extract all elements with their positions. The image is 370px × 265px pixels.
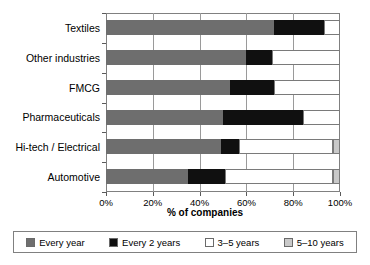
bar-segment-every-2-years (230, 80, 274, 95)
legend-label: Every year (39, 237, 84, 248)
legend-item[interactable]: 3–5 years (205, 237, 260, 248)
x-axis-tick (340, 192, 341, 196)
bar-segment-every-year (106, 20, 274, 35)
bar-segment-every-2-years (221, 139, 240, 154)
y-axis-label: Hi-tech / Electrical (0, 141, 100, 153)
legend-swatch-icon (109, 238, 118, 247)
x-axis-title: % of companies (0, 207, 370, 218)
bar-segment-every-2-years (246, 50, 272, 65)
legend-label: 3–5 years (218, 237, 260, 248)
y-axis-label: FMCG (0, 82, 100, 94)
bar-segment-5-10-years (333, 139, 340, 154)
bar-segment-3-5-years (272, 50, 340, 65)
bar-segment-every-2-years (188, 169, 225, 184)
y-axis-label: Automotive (0, 171, 100, 183)
legend-swatch-icon (26, 238, 35, 247)
bar-segment-every-year (106, 110, 223, 125)
legend-label: Every 2 years (122, 237, 180, 248)
x-axis-tick (153, 192, 154, 196)
legend-label: 5–10 years (297, 237, 344, 248)
bar-segment-3-5-years (274, 80, 340, 95)
bar-row (106, 162, 340, 192)
bar-segment-every-2-years (223, 110, 303, 125)
bar-row (106, 13, 340, 43)
bar-segment-3-5-years (303, 110, 340, 125)
y-axis-label: Textiles (0, 22, 100, 34)
bar-row (106, 43, 340, 73)
bar-row (106, 103, 340, 133)
bar-segment-every-2-years (274, 20, 323, 35)
bar-segment-5-10-years (333, 169, 340, 184)
bar-segment-every-year (106, 169, 188, 184)
stacked-bar-chart: TextilesOther industriesFMCGPharmaceutic… (0, 0, 370, 222)
bar-segment-every-year (106, 139, 221, 154)
stacked-bar (106, 110, 340, 125)
stacked-bar (106, 169, 340, 184)
legend-swatch-icon (284, 238, 293, 247)
bar-segment-3-5-years (225, 169, 333, 184)
legend-swatch-icon (205, 238, 214, 247)
legend-item[interactable]: Every year (26, 237, 84, 248)
legend-item[interactable]: Every 2 years (109, 237, 180, 248)
y-axis-label: Pharmaceuticals (0, 111, 100, 123)
bar-row (106, 73, 340, 103)
bar-segment-3-5-years (324, 20, 340, 35)
y-axis-label: Other industries (0, 52, 100, 64)
bar-segment-every-year (106, 80, 230, 95)
bar-row (106, 132, 340, 162)
x-axis-tick (246, 192, 247, 196)
x-axis-tick (293, 192, 294, 196)
stacked-bar (106, 80, 340, 95)
chart-legend: Every yearEvery 2 years3–5 years5–10 yea… (13, 231, 357, 253)
legend-item[interactable]: 5–10 years (284, 237, 344, 248)
bar-segment-3-5-years (239, 139, 333, 154)
bar-segment-every-year (106, 50, 246, 65)
stacked-bar (106, 139, 340, 154)
stacked-bar (106, 50, 340, 65)
x-axis-tick (200, 192, 201, 196)
x-axis-tick (106, 192, 107, 196)
stacked-bar (106, 20, 340, 35)
